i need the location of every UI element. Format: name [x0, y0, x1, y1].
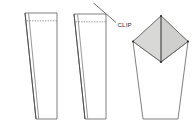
figure3-apex-dot-left	[132, 40, 134, 42]
diagram-canvas: CLIP	[0, 0, 194, 130]
clip-label-text: CLIP	[118, 21, 132, 28]
figure3-apex-dot-top	[160, 15, 162, 17]
figure3-apex-dot-right	[187, 40, 189, 42]
folding-steps-diagram: CLIP	[0, 0, 194, 130]
figure3-apex-dot-bottom	[160, 61, 162, 63]
